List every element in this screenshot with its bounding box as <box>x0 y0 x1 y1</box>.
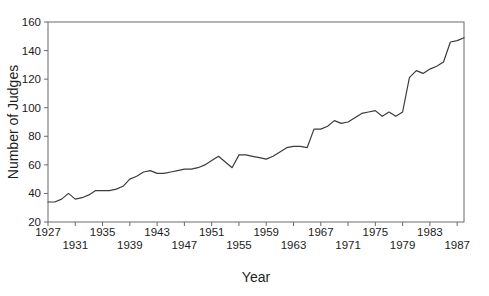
x-tick-label: 1963 <box>281 239 307 251</box>
y-tick-label: 120 <box>22 73 41 85</box>
judges-series-line <box>48 38 464 202</box>
y-axis-title: Number of Judges <box>5 65 21 179</box>
y-tick-label: 100 <box>22 102 41 114</box>
y-tick-label: 160 <box>22 16 41 28</box>
x-tick-label: 1935 <box>90 226 116 238</box>
x-tick-label: 1987 <box>444 239 470 251</box>
x-tick-label: 1931 <box>62 239 88 251</box>
x-tick-label: 1939 <box>117 239 143 251</box>
x-tick-label: 1971 <box>335 239 361 251</box>
x-tick-label: 1927 <box>35 226 61 238</box>
y-tick-label: 80 <box>28 130 41 142</box>
x-tick-label: 1947 <box>172 239 198 251</box>
x-tick-label: 1983 <box>417 226 443 238</box>
plot-frame <box>48 22 464 222</box>
x-tick-label: 1967 <box>308 226 334 238</box>
x-tick-label: 1955 <box>226 239 252 251</box>
y-tick-label: 40 <box>28 187 41 199</box>
chart-canvas: 2040608010012014016019271931193519391943… <box>0 0 489 296</box>
x-tick-label: 1951 <box>199 226 225 238</box>
x-tick-label: 1943 <box>144 226 170 238</box>
x-tick-label: 1979 <box>390 239 416 251</box>
y-tick-label: 140 <box>22 45 41 57</box>
x-axis-title: Year <box>242 269 270 285</box>
judges-line-chart: 2040608010012014016019271931193519391943… <box>0 0 489 296</box>
x-tick-label: 1959 <box>253 226 279 238</box>
y-tick-label: 60 <box>28 159 41 171</box>
x-tick-label: 1975 <box>363 226 389 238</box>
